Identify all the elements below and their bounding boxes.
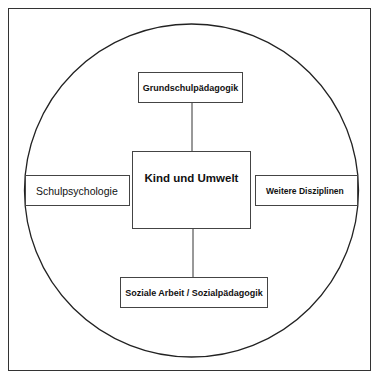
node-grundschulpaedagogik: Grundschulpädagogik <box>138 72 243 103</box>
center-label: Kind und Umwelt <box>145 172 239 184</box>
node-kind-und-umwelt: Kind und Umwelt <box>132 151 251 229</box>
node-label: Soziale Arbeit / Sozialpädagogik <box>125 288 263 298</box>
node-schulpsychologie: Schulpsychologie <box>25 175 130 206</box>
node-soziale-arbeit: Soziale Arbeit / Sozialpädagogik <box>120 277 268 308</box>
node-label: Grundschulpädagogik <box>143 83 239 93</box>
node-label: Schulpsychologie <box>36 185 118 197</box>
node-weitere-disziplinen: Weitere Disziplinen <box>255 175 358 206</box>
node-label: Weitere Disziplinen <box>266 186 344 196</box>
